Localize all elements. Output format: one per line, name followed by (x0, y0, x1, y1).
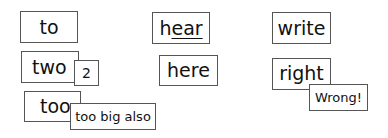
word-underlined-part: ear (171, 17, 202, 39)
word-label: to (39, 18, 58, 37)
word-card-write[interactable]: write (272, 12, 331, 44)
word-prefix: h (159, 17, 171, 39)
note-card-too[interactable]: too big also (70, 103, 156, 130)
note-card-two[interactable]: 2 (74, 60, 99, 86)
word-label: here (167, 61, 210, 80)
word-label: two (32, 58, 67, 77)
word-label: too (40, 97, 71, 116)
note-card-right[interactable]: Wrong! (309, 84, 368, 111)
note-label: 2 (82, 66, 91, 80)
word-card-to[interactable]: to (20, 11, 78, 43)
word-label: write (278, 19, 326, 38)
word-label: right (279, 64, 324, 83)
word-card-hear[interactable]: hear (152, 12, 210, 44)
word-card-here[interactable]: here (159, 55, 218, 86)
word-label: hear (159, 19, 202, 38)
note-label: Wrong! (315, 91, 362, 104)
note-label: too big also (75, 110, 151, 123)
word-card-two[interactable]: two (21, 51, 79, 83)
